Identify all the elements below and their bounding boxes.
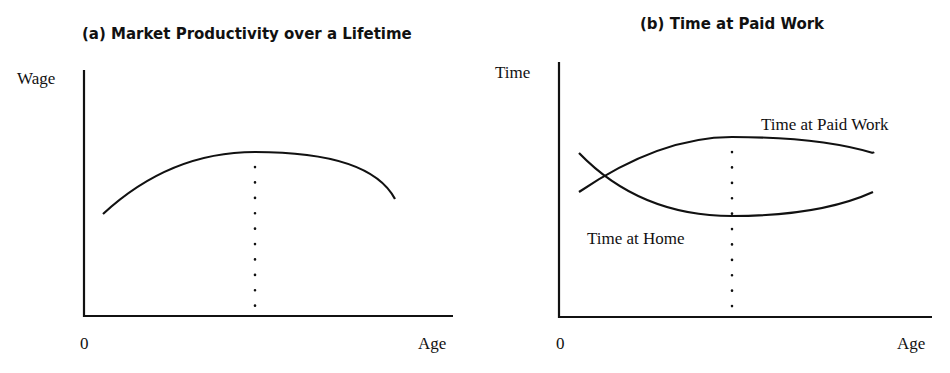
panel-b: (b) Time at Paid Work Time 0 Age Time at… [495,15,932,353]
panel-a: (a) Market Productivity over a Lifetime … [17,25,453,353]
time-at-paid-work-curve [579,137,874,192]
panel-a-x-label: Age [418,334,446,353]
time-at-home-label: Time at Home [587,229,685,248]
panel-a-y-label: Wage [17,69,55,88]
figure-canvas: (a) Market Productivity over a Lifetime … [0,0,950,373]
time-at-home-curve [579,153,873,216]
wage-curve [103,152,395,214]
panel-a-axes [84,70,453,316]
panel-b-x-label: Age [897,334,925,353]
time-at-paid-work-label: Time at Paid Work [761,115,889,134]
panel-b-title: (b) Time at Paid Work [640,15,825,33]
panel-a-title: (a) Market Productivity over a Lifetime [82,25,412,43]
panel-b-origin: 0 [556,334,565,353]
panel-b-y-label: Time [495,63,530,82]
panel-b-axes [559,62,932,317]
panel-a-origin: 0 [80,334,89,353]
